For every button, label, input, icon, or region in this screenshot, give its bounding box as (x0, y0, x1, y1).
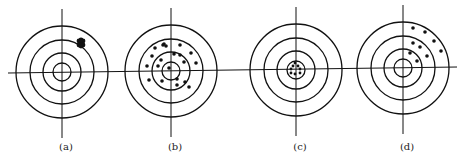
shot-dot (175, 83, 179, 87)
shot-dot (153, 46, 157, 50)
shot-dot (167, 66, 171, 70)
target-b (125, 8, 217, 137)
shot-dot (183, 80, 187, 84)
shot-dot (156, 64, 160, 68)
caption-d: (d) (400, 141, 414, 152)
shot-dot (145, 64, 149, 68)
shot-dot (411, 26, 415, 30)
shot-dot (175, 77, 179, 81)
shot-dot (290, 72, 293, 75)
shot-dot (432, 39, 436, 43)
shot-cluster (79, 44, 84, 49)
shot-dot (159, 58, 163, 62)
shot-dot (294, 62, 297, 65)
shot-dot (297, 65, 300, 68)
target-c (250, 7, 342, 136)
shot-dot (408, 51, 412, 55)
shot-dot (147, 78, 151, 82)
shot-dot (194, 61, 198, 65)
shot-dot (418, 45, 422, 49)
shot-dot (187, 85, 191, 89)
horizontal-axis-line (8, 67, 457, 73)
caption-a: (a) (59, 141, 73, 152)
shot-dot (299, 72, 302, 75)
shot-dot (292, 65, 295, 68)
caption-c: (c) (293, 141, 306, 152)
shot-dot (415, 59, 419, 63)
shot-dot (182, 60, 186, 64)
shot-dot (160, 79, 164, 83)
target-figure (0, 0, 457, 163)
shot-dot (189, 51, 193, 55)
shot-dot (290, 68, 293, 71)
target-a (16, 9, 108, 138)
shot-dot (423, 30, 427, 34)
shot-dot (294, 73, 297, 76)
shot-dot (439, 49, 443, 53)
shot-dot (164, 44, 168, 48)
caption-b: (b) (168, 141, 182, 152)
shot-dot (411, 41, 415, 45)
shot-dot (178, 53, 182, 57)
shot-cluster (79, 38, 84, 43)
target-d (357, 5, 449, 134)
shot-dot (299, 68, 302, 71)
shot-dot (178, 43, 182, 47)
shot-dot (172, 52, 176, 56)
shot-dot (425, 54, 429, 58)
shot-dot (150, 54, 154, 58)
